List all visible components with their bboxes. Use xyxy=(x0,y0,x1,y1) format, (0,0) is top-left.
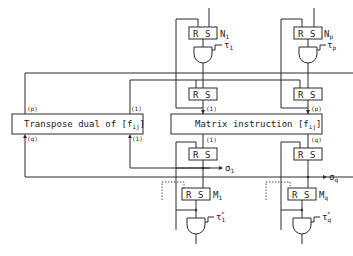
svg-text:R: R xyxy=(186,190,192,200)
svg-text:S: S xyxy=(205,90,210,100)
port-matrix-top-left: (1) xyxy=(206,105,217,112)
svg-text:R: R xyxy=(193,29,199,39)
port-transpose-bot-right: (1) xyxy=(132,135,143,142)
svg-text:S: S xyxy=(310,29,315,39)
flipflop-lowq: R S xyxy=(294,148,322,160)
port-transpose-bot-left: (q) xyxy=(27,135,38,143)
svg-text:R: R xyxy=(298,150,304,160)
flipflop-np: R S xyxy=(294,27,322,39)
and-gate-tau1 xyxy=(194,47,212,63)
svg-text:R: R xyxy=(193,150,199,160)
flipflop-mq: R S xyxy=(288,188,316,200)
label-sigmaq: σq xyxy=(329,172,338,184)
flipflop-mid1: R S xyxy=(189,88,217,100)
label-taup: τp xyxy=(327,40,336,52)
label-mq: Mq xyxy=(319,190,328,202)
and-gate-taup xyxy=(299,47,317,63)
port-matrix-bot-right: (q) xyxy=(311,136,322,144)
svg-text:S: S xyxy=(310,90,315,100)
block-matrix-instruction: Matrix instruction [fij] xyxy=(171,114,322,134)
label-tauq-star: τq* xyxy=(322,210,331,224)
svg-text:S: S xyxy=(205,29,210,39)
svg-text:R: R xyxy=(193,90,199,100)
label-n1: N1 xyxy=(220,29,229,40)
port-matrix-bot-left: (1) xyxy=(206,136,217,143)
and-gate-tauq-star xyxy=(293,218,311,234)
svg-text:R: R xyxy=(292,190,298,200)
svg-text:S: S xyxy=(304,190,309,200)
port-transpose-top-right: (1) xyxy=(131,105,142,112)
and-gate-tau1-star xyxy=(187,218,205,234)
flipflop-low1: R S xyxy=(189,148,217,160)
svg-text:S: S xyxy=(198,190,203,200)
label-tau1-star: τ1* xyxy=(216,210,225,223)
flipflop-midp: R S xyxy=(294,88,322,100)
svg-text:R: R xyxy=(298,90,304,100)
svg-text:S: S xyxy=(310,150,315,160)
label-tau1: τ1 xyxy=(224,40,233,51)
port-transpose-top-left: (p) xyxy=(27,105,38,113)
label-m1: M1 xyxy=(213,190,222,201)
label-sigma1: σ1 xyxy=(225,163,234,174)
port-matrix-top-right: (p) xyxy=(311,105,322,113)
control-circuit-diagram: R S N1 τ1 R S Np τp R S R S (1) (p) xyxy=(0,0,353,256)
svg-text:S: S xyxy=(205,150,210,160)
flipflop-n1: R S xyxy=(189,27,217,39)
block-transpose-dual: Transpose dual of [fij] xyxy=(12,114,145,134)
svg-text:R: R xyxy=(298,29,304,39)
flipflop-m1: R S xyxy=(182,188,210,200)
